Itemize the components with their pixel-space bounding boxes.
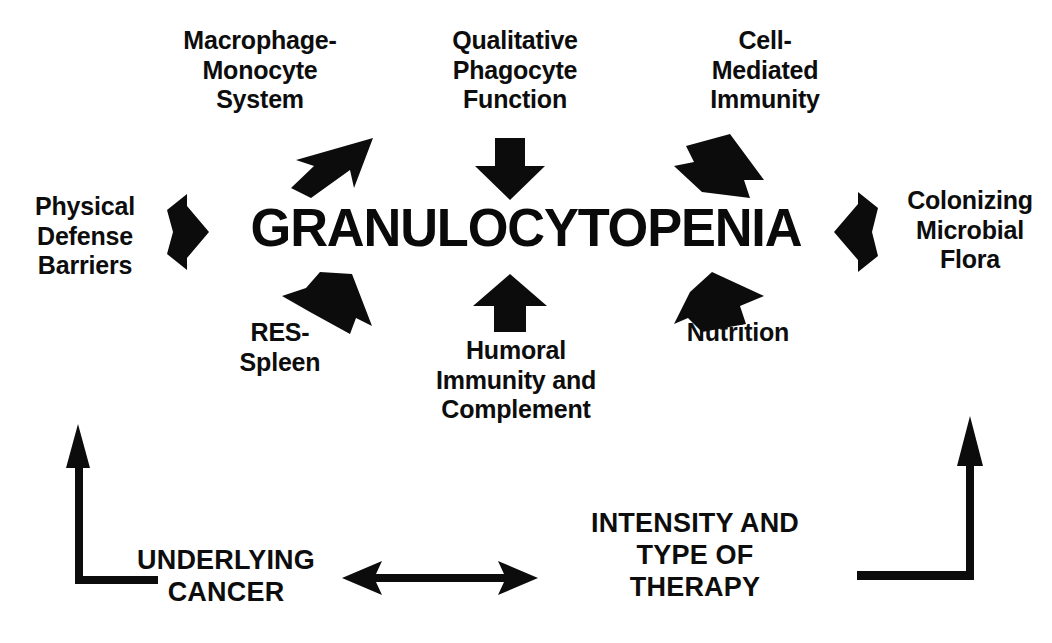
label-intensity-and-type-of-therapy: INTENSITY AND TYPE OF THERAPY [560,508,830,604]
label-humoral-immunity-and-complement: Humoral Immunity and Complement [398,336,634,425]
arrow-nutrition-to-center [668,268,768,338]
arrow-therapy-up [855,404,1000,589]
diagram-canvas: Macrophage- Monocyte System Qualitative … [0,0,1052,643]
label-cell-mediated-immunity: Cell- Mediated Immunity [655,26,875,115]
arrow-macrophage-to-center [278,132,382,204]
arrow-colonizing-to-center [832,190,884,274]
arrow-physical-to-center [161,192,211,272]
arrow-cellmediated-to-center [668,130,770,206]
arrow-res-to-center [276,268,376,338]
arrow-qualitative-to-center [471,136,549,202]
arrow-underlying-cancer-up [52,408,162,588]
arrow-humoral-to-center [470,272,550,334]
label-qualitative-phagocyte-function: Qualitative Phagocyte Function [410,26,620,115]
label-macrophage-monocyte-system: Macrophage- Monocyte System [150,26,370,115]
arrow-cancer-therapy-bidirectional [340,557,540,599]
